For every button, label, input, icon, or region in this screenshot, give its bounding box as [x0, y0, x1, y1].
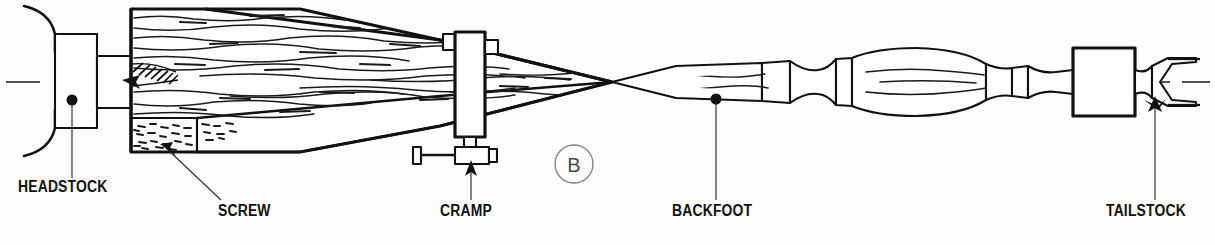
label-cramp: CRAMP [440, 201, 492, 220]
neck-section [986, 64, 1012, 100]
marker-letter: B [567, 154, 580, 176]
headstock-assembly [24, 6, 131, 156]
workpiece [122, 9, 1152, 152]
lathe-diagram: B HEADSTOCK SCREW CRAMP BACKFOOT TAILSTO… [0, 0, 1215, 245]
headstock-dot [67, 95, 78, 106]
cramp-bar [455, 32, 485, 137]
figure-marker-b: B [555, 145, 593, 183]
leader-screw [166, 148, 221, 200]
headstock-body-arc-bottom [24, 110, 55, 156]
figure-canvas: B HEADSTOCK SCREW CRAMP BACKFOOT TAILSTO… [0, 0, 1215, 245]
bead-ring-1 [762, 61, 790, 103]
tailstock-square-block [1073, 48, 1135, 116]
headstock-body-arc-top [24, 6, 55, 52]
label-screw: SCREW [218, 201, 271, 220]
label-headstock: HEADSTOCK [18, 177, 108, 196]
label-backfoot: BACKFOOT [672, 201, 753, 220]
cramp-shoe-tip [489, 149, 497, 162]
headstock-spindle-shaft [97, 56, 131, 108]
cove-2 [1028, 66, 1073, 98]
label-tailstock: TAILSTOCK [1106, 201, 1186, 220]
fillet-ring-2 [836, 58, 852, 106]
cramp-tommy-knob [413, 147, 421, 164]
backfoot-dot [711, 94, 722, 105]
cramp-right-lug [485, 40, 498, 54]
cove-1 [790, 59, 836, 105]
cramp-shoe [455, 147, 489, 164]
headstock-faceplate [55, 34, 97, 128]
tailstock-pip [1135, 66, 1152, 98]
collar-ring [1012, 66, 1028, 98]
backfoot-section [612, 63, 762, 101]
labels-group: HEADSTOCK SCREW CRAMP BACKFOOT TAILSTOCK [18, 177, 1186, 220]
